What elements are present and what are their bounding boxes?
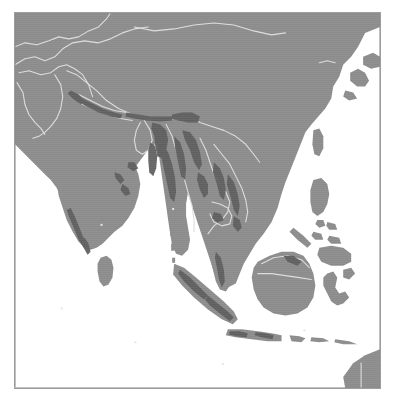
distribution-map-svg	[15, 13, 380, 388]
map-frame	[14, 12, 381, 389]
screenshot-root	[0, 0, 395, 405]
